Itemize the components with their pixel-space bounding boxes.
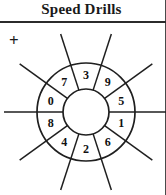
wheel-digit: 0: [48, 94, 54, 108]
wheel-digit: 4: [61, 135, 67, 149]
number-wheel-svg: 3951624807: [0, 24, 166, 195]
wheel-digit: 6: [105, 135, 111, 149]
wheel-spoke: [105, 126, 153, 161]
wheel-digit: 3: [83, 68, 89, 82]
page-title: Speed Drills: [0, 1, 163, 18]
wheel-digit: 8: [48, 116, 54, 130]
wheel-spoke: [20, 64, 68, 99]
wheel-spoke: [20, 126, 68, 161]
wheel-digit: 1: [118, 116, 124, 130]
worksheet-page: Speed Drills + 3951624807: [0, 0, 166, 195]
number-wheel: 3951624807: [0, 24, 166, 195]
title-divider: [0, 21, 166, 23]
wheel-spoke: [105, 64, 153, 99]
wheel-inner-circle: [63, 89, 109, 135]
wheel-digit: 2: [83, 142, 89, 156]
wheel-digit: 9: [105, 75, 111, 89]
wheel-digit: 7: [61, 75, 67, 89]
wheel-digit: 5: [118, 94, 124, 108]
wheel-spokes: [4, 34, 166, 190]
